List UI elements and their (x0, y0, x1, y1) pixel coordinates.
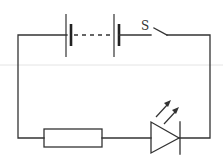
switch: S (141, 19, 167, 35)
led-triangle (151, 122, 179, 153)
led (102, 100, 180, 154)
switch-label: S (141, 19, 149, 33)
wire-right (167, 35, 210, 138)
circuit-diagram: S (0, 0, 223, 160)
battery-cell-2 (114, 14, 119, 57)
resistor (44, 129, 102, 147)
wire-left (18, 35, 67, 138)
switch-lever (154, 28, 167, 35)
light-arrows-icon (156, 100, 179, 124)
